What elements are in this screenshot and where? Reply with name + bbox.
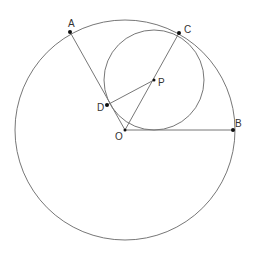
label-P: P [158,77,165,88]
point-A [68,30,72,34]
point-O [124,129,127,132]
label-O: O [115,131,123,142]
geometry-diagram: A B C D O P [0,0,256,255]
point-D [105,103,109,107]
point-P [153,79,156,82]
label-A: A [68,18,75,29]
label-D: D [97,102,104,113]
segment-PD [107,80,154,105]
label-C: C [184,24,191,35]
label-B: B [235,118,242,129]
point-C [177,31,181,35]
